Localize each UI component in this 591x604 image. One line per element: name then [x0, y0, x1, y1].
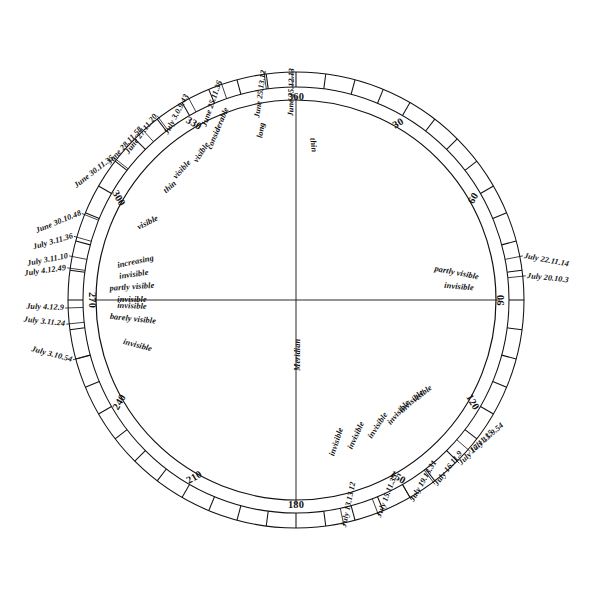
ring-tick — [502, 355, 516, 359]
ring-tick — [157, 469, 166, 481]
ring-tick — [85, 382, 99, 388]
ring-tick — [493, 213, 507, 219]
observation-date-label: July 4.12.9 — [26, 303, 64, 312]
ring-tick — [237, 506, 241, 520]
ring-tick — [502, 241, 516, 245]
observation-date-label: June 25.12.13 — [287, 68, 296, 116]
ring-tick — [403, 103, 411, 116]
ring-tick — [493, 382, 507, 388]
ring-tick — [209, 497, 215, 511]
ring-tick — [447, 139, 458, 150]
ring-tick — [465, 161, 477, 170]
ring-tick — [99, 407, 112, 415]
ring-tick — [324, 511, 326, 526]
ring-tick — [480, 407, 493, 415]
ring-tick — [135, 451, 146, 462]
visibility-note: invisible — [117, 296, 146, 304]
ring-tick — [182, 484, 190, 497]
ring-tick — [115, 161, 127, 170]
degree-label-180: 180 — [288, 499, 304, 510]
ring-tick — [378, 89, 384, 103]
ring-tick — [465, 430, 477, 439]
ring-tick — [507, 328, 522, 330]
ring-tick — [70, 328, 85, 330]
ring-tick — [99, 186, 112, 194]
degree-label-270: 270 — [87, 292, 98, 308]
ring-tick — [266, 511, 268, 526]
ring-tick — [480, 186, 493, 194]
axis-group — [92, 96, 500, 504]
ring-tick — [237, 80, 241, 94]
ring-tick — [115, 430, 127, 439]
visibility-note: thin — [308, 137, 318, 152]
ring-tick — [507, 270, 522, 272]
ring-tick — [351, 80, 355, 94]
ring-tick — [76, 241, 90, 245]
ring-tick — [70, 270, 85, 272]
meridian-axis-label: Meridian — [293, 339, 302, 371]
degree-label-90: 90 — [495, 295, 506, 306]
ring-tick — [324, 74, 326, 89]
ring-tick — [426, 119, 435, 131]
diagram-plate: 180210240270300330360306090120150 July 1… — [0, 0, 591, 604]
